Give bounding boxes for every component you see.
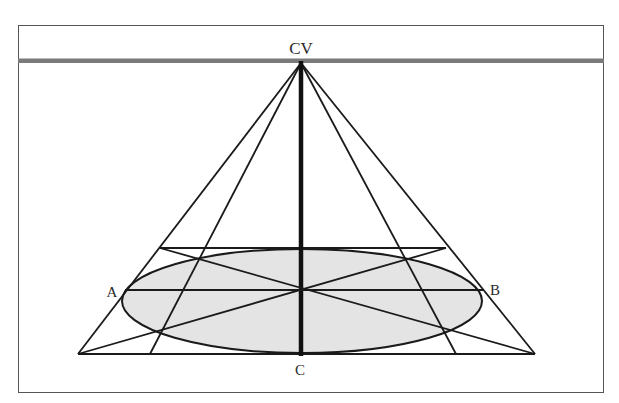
- label-c: C: [295, 362, 305, 378]
- label-cv: CV: [289, 39, 313, 58]
- label-b: B: [490, 282, 500, 298]
- perspective-diagram: CV A B C: [0, 0, 619, 403]
- label-a: A: [107, 284, 118, 300]
- horizon-line: [18, 59, 604, 64]
